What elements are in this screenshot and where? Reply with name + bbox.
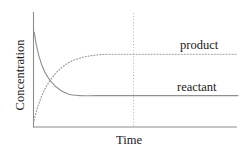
concentration-vs-time-chart: Concentration Time product reactant bbox=[0, 0, 243, 154]
series-label-product: product bbox=[180, 39, 218, 52]
y-axis-label: Concentration bbox=[14, 0, 28, 152]
chart-plot-area bbox=[0, 0, 243, 154]
series-label-reactant: reactant bbox=[177, 81, 217, 94]
x-axis-label: Time bbox=[103, 134, 155, 147]
